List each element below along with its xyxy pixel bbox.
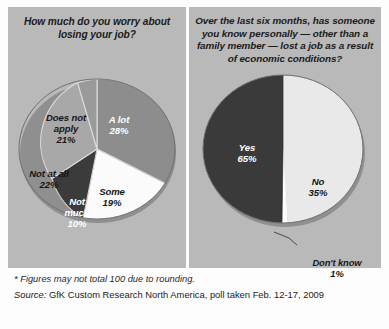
chart-title-worry: How much do you worry about losing your …	[8, 15, 186, 41]
footnote-source-text: GfK Custom Research North America, poll …	[46, 289, 324, 300]
footnote-source-word: Source:	[14, 289, 46, 300]
chart-panel-someone-known: Over the last six months, has someone yo…	[189, 7, 381, 268]
pie-slice-no	[283, 75, 363, 223]
poll-graphic: How much do you worry about losing your …	[0, 0, 389, 329]
pie-svg-someone-known	[199, 71, 371, 231]
charts-container: How much do you worry about losing your …	[8, 7, 381, 268]
chart-title-someone-known: Over the last six months, has someone yo…	[189, 15, 381, 65]
pie-svg-worry	[16, 65, 178, 233]
footnote-source: Source: GfK Custom Research North Americ…	[14, 287, 380, 303]
pie-chart-worry	[16, 65, 178, 233]
footnote-rounding: * Figures may not total 100 due to round…	[14, 272, 380, 287]
pie-chart-someone-known	[199, 71, 371, 231]
chart-panel-worry: How much do you worry about losing your …	[8, 7, 186, 268]
footnotes: * Figures may not total 100 due to round…	[14, 272, 380, 303]
pie-slice-yes	[202, 75, 283, 223]
